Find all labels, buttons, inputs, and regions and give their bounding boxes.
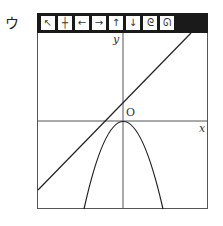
origin-label: O	[126, 106, 135, 119]
linear-function-line	[38, 33, 191, 190]
y-axis-label: y	[113, 33, 119, 46]
graph-plot	[0, 0, 223, 226]
x-axis-label: x	[199, 122, 205, 135]
